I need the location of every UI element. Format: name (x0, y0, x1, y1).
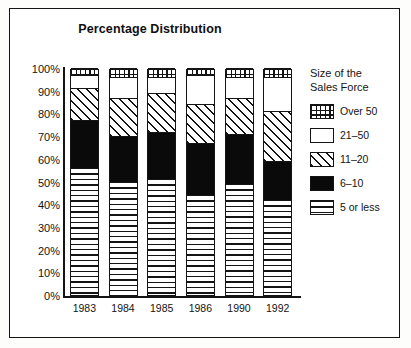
bar-segment-1985-over-50[interactable] (148, 68, 175, 77)
y-axis-tick-40: 40% (8, 199, 60, 211)
legend-entry-over-50[interactable]: Over 50 (310, 99, 402, 123)
legend-title-line-1: Size of the (310, 66, 402, 80)
bar-segment-1984-21-50[interactable] (110, 77, 137, 97)
chart-title: Percentage Distribution (0, 22, 300, 36)
x-axis-tick-labels: 198319841985198619901992 (65, 302, 297, 322)
legend-swatch-21-50 (310, 128, 334, 143)
x-axis-tick-1985: 1985 (140, 302, 184, 314)
legend-swatch-11-20 (310, 152, 334, 167)
figure-canvas: Percentage Distribution 0%10%20%30%40%50… (0, 0, 411, 348)
bar-segment-1986-21-50[interactable] (187, 75, 214, 105)
legend-swatch-over-50 (310, 104, 334, 119)
bar-segment-1986-over-50[interactable] (187, 68, 214, 75)
y-axis-tick-30: 30% (8, 222, 60, 234)
bar-segment-1983-5-or-less[interactable] (71, 168, 98, 295)
bar-segment-1984-over-50[interactable] (110, 68, 137, 77)
stacked-bar-1990[interactable] (225, 69, 254, 296)
legend-label-21-50: 21–50 (340, 129, 369, 141)
bar-segment-1984-6-10[interactable] (110, 136, 137, 181)
bar-segment-1990-21-50[interactable] (226, 77, 253, 97)
bar-segment-1992-5-or-less[interactable] (264, 200, 291, 295)
bar-segment-1992-6-10[interactable] (264, 161, 291, 200)
legend-label-over-50: Over 50 (340, 105, 377, 117)
legend-entry-5-or-less[interactable]: 5 or less (310, 195, 402, 219)
y-axis-tick-60: 60% (8, 154, 60, 166)
y-axis-tick-50: 50% (8, 177, 60, 189)
bar-segment-1985-21-50[interactable] (148, 77, 175, 93)
legend-title-line-2: Sales Force (310, 80, 402, 94)
legend-entry-list: Over 5021–5011–206–105 or less (310, 99, 402, 219)
bar-segment-1985-5-or-less[interactable] (148, 179, 175, 295)
bar-segment-1986-5-or-less[interactable] (187, 195, 214, 295)
y-axis-tick-70: 70% (8, 131, 60, 143)
bar-segment-1990-6-10[interactable] (226, 134, 253, 184)
x-axis-tick-1984: 1984 (101, 302, 145, 314)
bar-segment-1990-over-50[interactable] (226, 68, 253, 77)
bar-segment-1983-21-50[interactable] (71, 75, 98, 89)
bar-segment-1983-11-20[interactable] (71, 88, 98, 120)
bar-segment-1990-5-or-less[interactable] (226, 184, 253, 295)
y-axis-tick-100: 100% (8, 63, 60, 75)
bar-segment-1992-21-50[interactable] (264, 77, 291, 111)
y-axis-tick-0: 0% (8, 290, 60, 302)
bar-segment-1983-over-50[interactable] (71, 68, 98, 75)
legend-entry-11-20[interactable]: 11–20 (310, 147, 402, 171)
bar-segment-1984-11-20[interactable] (110, 98, 137, 137)
legend-label-5-or-less: 5 or less (340, 201, 380, 213)
legend-swatch-5-or-less (310, 200, 334, 215)
bar-segment-1992-over-50[interactable] (264, 68, 291, 77)
bar-segment-1985-11-20[interactable] (148, 93, 175, 132)
x-axis-tick-1992: 1992 (256, 302, 300, 314)
legend-label-6-10: 6–10 (340, 177, 363, 189)
legend-title: Size of the Sales Force (310, 66, 402, 94)
bar-segment-1984-5-or-less[interactable] (110, 182, 137, 296)
stacked-bar-1992[interactable] (263, 69, 292, 296)
legend-entry-6-10[interactable]: 6–10 (310, 171, 402, 195)
bar-segment-1990-11-20[interactable] (226, 98, 253, 134)
bar-segment-1992-11-20[interactable] (264, 111, 291, 161)
plot-area (65, 69, 297, 296)
bar-segment-1985-6-10[interactable] (148, 132, 175, 180)
legend-label-11-20: 11–20 (340, 153, 368, 165)
y-axis-tick-90: 90% (8, 86, 60, 98)
bar-segment-1983-6-10[interactable] (71, 120, 98, 168)
stacked-bar-1986[interactable] (186, 69, 215, 296)
legend: Size of the Sales Force Over 5021–5011–2… (310, 66, 402, 219)
bar-segment-1986-6-10[interactable] (187, 143, 214, 195)
y-axis-tick-20: 20% (8, 245, 60, 257)
stacked-bar-1985[interactable] (147, 69, 176, 296)
legend-swatch-6-10 (310, 176, 334, 191)
stacked-bar-1984[interactable] (109, 69, 138, 296)
bar-segment-1986-11-20[interactable] (187, 104, 214, 143)
x-axis-line (63, 296, 301, 298)
stacked-bar-1983[interactable] (70, 69, 99, 296)
x-axis-tick-1986: 1986 (178, 302, 222, 314)
y-axis-tick-80: 80% (8, 108, 60, 120)
y-axis-tick-10: 10% (8, 267, 60, 279)
y-axis-tick-labels: 0%10%20%30%40%50%60%70%80%90%100% (8, 69, 60, 296)
legend-entry-21-50[interactable]: 21–50 (310, 123, 402, 147)
x-axis-tick-1983: 1983 (62, 302, 106, 314)
x-axis-tick-1990: 1990 (217, 302, 261, 314)
